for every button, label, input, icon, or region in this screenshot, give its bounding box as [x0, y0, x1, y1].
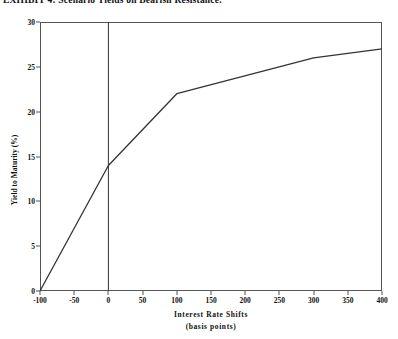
- y-tick-mark: [36, 111, 40, 112]
- x-tick-mark: [211, 291, 212, 295]
- y-tick-label: 25: [28, 62, 36, 71]
- x-tick-label: 0: [107, 296, 111, 305]
- x-tick-mark: [279, 291, 280, 295]
- x-tick-mark: [108, 291, 109, 295]
- chart-canvas: [40, 22, 382, 291]
- series-line-group: [40, 49, 382, 291]
- x-tick-mark: [347, 291, 348, 295]
- x-tick-mark: [382, 291, 383, 295]
- y-tick-label: 5: [31, 242, 35, 251]
- x-tick-mark: [74, 291, 75, 295]
- x-tick-mark: [313, 291, 314, 295]
- x-tick-label: 250: [274, 296, 285, 305]
- chart-title: EXHIBIT 4: Scenario Yields on Bearish Re…: [3, 0, 222, 5]
- x-tick-label: 350: [342, 296, 353, 305]
- series-line: [40, 49, 382, 291]
- plot-area: 051015202530 -100-5005010015020025030035…: [40, 22, 382, 291]
- x-tick-mark: [176, 291, 177, 295]
- y-tick-mark: [36, 156, 40, 157]
- x-tick-label: 400: [376, 296, 387, 305]
- x-tick-label: 300: [308, 296, 319, 305]
- x-tick-label: 150: [205, 296, 216, 305]
- y-tick-label: 30: [28, 18, 36, 27]
- x-axis-subtitle: (basis points): [40, 322, 382, 331]
- x-tick-label: -100: [33, 296, 47, 305]
- x-tick-mark: [142, 291, 143, 295]
- y-tick-label: 15: [28, 152, 36, 161]
- x-tick-label: -50: [69, 296, 79, 305]
- y-tick-mark: [36, 201, 40, 202]
- y-axis-title: Yield to Maturity (%): [10, 134, 19, 204]
- y-tick-label: 20: [28, 107, 36, 116]
- x-tick-label: 100: [171, 296, 182, 305]
- x-axis-title-block: Interest Rate Shifts (basis points): [40, 310, 382, 331]
- x-tick-label: 50: [139, 296, 147, 305]
- y-tick-label: 10: [28, 197, 36, 206]
- x-tick-label: 200: [240, 296, 251, 305]
- x-tick-mark: [40, 291, 41, 295]
- x-axis-title: Interest Rate Shifts: [40, 310, 382, 319]
- y-tick-label: 0: [31, 287, 35, 296]
- y-tick-mark: [36, 246, 40, 247]
- x-tick-mark: [245, 291, 246, 295]
- y-tick-mark: [36, 66, 40, 67]
- y-tick-mark: [36, 22, 40, 23]
